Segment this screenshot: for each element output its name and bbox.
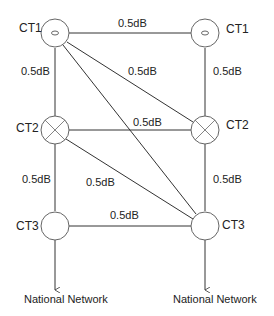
node-label-ct1-right: CT1 <box>226 22 249 36</box>
output-label-left: National Network <box>24 293 108 305</box>
network-diagram: CT1 CT2 CT3 CT1 CT2 CT3 0.5dB 0.5dB 0.5d… <box>0 0 274 316</box>
node-label-ct1-left: CT1 <box>19 21 42 35</box>
node-ct1-left <box>41 19 69 47</box>
edge-label-ct1l-ct2l: 0.5dB <box>21 65 50 77</box>
edge-label-ct1-ct1: 0.5dB <box>118 17 147 29</box>
edge-label-ct2r-ct3r: 0.5dB <box>213 173 242 185</box>
edge-label-ct1r-ct2r: 0.5dB <box>213 65 242 77</box>
node-ct2-right <box>191 116 219 144</box>
node-label-ct3-left: CT3 <box>16 219 39 233</box>
output-label-right: National Network <box>173 293 257 305</box>
edge-label-ct3-ct3: 0.5dB <box>110 209 139 221</box>
node-ct2-left <box>41 116 69 144</box>
node-label-ct2-left: CT2 <box>16 121 39 135</box>
edge-label-ct1l-ct2r: 0.5dB <box>128 65 157 77</box>
edge-label-ct2-ct2: 0.5dB <box>133 116 162 128</box>
node-label-ct3-right: CT3 <box>222 218 245 232</box>
node-ct1-right <box>191 19 219 47</box>
edge-ct1l-ct2r <box>67 42 193 122</box>
node-label-ct2-right: CT2 <box>226 118 249 132</box>
edge-label-ct2l-ct3l: 0.5dB <box>22 173 51 185</box>
node-ct3-right <box>191 212 219 240</box>
node-ct3-left <box>41 212 69 240</box>
edge-label-ct2l-ct3r: 0.5dB <box>86 176 115 188</box>
